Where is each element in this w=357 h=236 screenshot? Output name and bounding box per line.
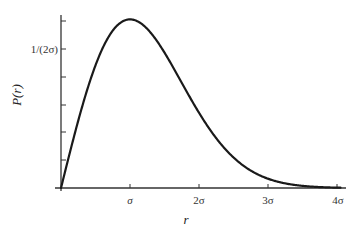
y-axis-label: P(r) (9, 84, 24, 107)
x-tick-label-2: 2σ (193, 194, 205, 206)
x-tick-label-1: σ (127, 194, 133, 206)
y-ticks (61, 21, 66, 160)
x-tick-label-3: 3σ (262, 194, 274, 206)
rayleigh-curve (61, 19, 340, 188)
x-axis-label: r (183, 212, 189, 227)
chart: σ 2σ 3σ 4σ 1/(2σ) r P(r) (0, 0, 357, 236)
x-tick-label-4: 4σ (332, 194, 344, 206)
y-tick-label-half: 1/(2σ) (31, 43, 59, 56)
